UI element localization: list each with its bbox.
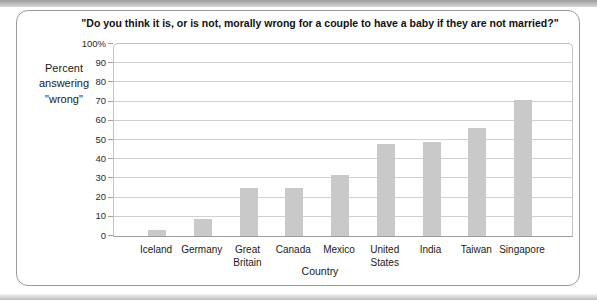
x-axis-title: Country bbox=[60, 265, 580, 277]
x-label-singapore: Singapore bbox=[486, 243, 558, 256]
y-tick-label-40: 40 bbox=[70, 153, 106, 164]
gridline-90 bbox=[114, 62, 572, 63]
bar-canada bbox=[285, 188, 303, 236]
gridline-50 bbox=[114, 139, 572, 140]
y-tick-label-10: 10 bbox=[70, 210, 106, 221]
y-tick-label-60: 60 bbox=[70, 114, 106, 125]
gridline-40 bbox=[114, 158, 572, 159]
y-tick-label-90: 90 bbox=[70, 57, 106, 68]
y-tick-mark-0 bbox=[108, 235, 113, 236]
gridline-60 bbox=[114, 120, 572, 121]
y-tick-label-100: 100% bbox=[70, 38, 106, 49]
page: "Do you think it is, or is not, morally … bbox=[0, 0, 597, 300]
y-tick-mark-10 bbox=[108, 216, 113, 217]
bar-taiwan bbox=[468, 128, 486, 236]
bar-great-britain bbox=[240, 188, 258, 236]
y-tick-label-20: 20 bbox=[70, 191, 106, 202]
gridline-80 bbox=[114, 81, 572, 82]
page-top-edge bbox=[0, 0, 597, 7]
y-tick-mark-80 bbox=[108, 81, 113, 82]
bar-united-states bbox=[377, 144, 395, 236]
y-tick-mark-30 bbox=[108, 177, 113, 178]
plot-area bbox=[113, 43, 573, 237]
chart-title: "Do you think it is, or is not, morally … bbox=[60, 17, 580, 29]
gridline-70 bbox=[114, 101, 572, 102]
y-tick-label-70: 70 bbox=[70, 95, 106, 106]
y-tick-label-0: 0 bbox=[70, 230, 106, 241]
y-tick-mark-100 bbox=[108, 43, 113, 44]
y-tick-label-80: 80 bbox=[70, 76, 106, 87]
y-tick-label-50: 50 bbox=[70, 134, 106, 145]
y-tick-mark-60 bbox=[108, 120, 113, 121]
bar-mexico bbox=[331, 175, 349, 236]
y-tick-mark-50 bbox=[108, 139, 113, 140]
y-tick-mark-20 bbox=[108, 197, 113, 198]
bar-india bbox=[423, 142, 441, 236]
y-tick-mark-40 bbox=[108, 158, 113, 159]
bar-germany bbox=[194, 219, 212, 236]
y-tick-mark-70 bbox=[108, 101, 113, 102]
bar-iceland bbox=[148, 230, 166, 236]
bar-singapore bbox=[514, 100, 532, 236]
y-tick-mark-90 bbox=[108, 62, 113, 63]
page-bottom-edge bbox=[0, 294, 597, 300]
y-tick-label-30: 30 bbox=[70, 172, 106, 183]
